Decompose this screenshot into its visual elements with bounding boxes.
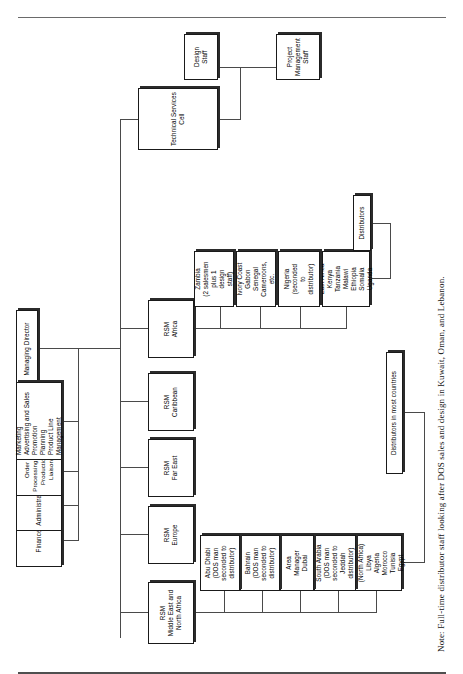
connector-mena-distributors-bus <box>424 413 425 563</box>
connector-rsm-europe-drop <box>120 534 148 535</box>
connector-mena-distributors-riser <box>402 562 424 563</box>
node-nigeria[interactable]: Nigeria (seconded to distributor) <box>278 251 320 307</box>
node-rsm-africa[interactable]: RSM Africa <box>148 300 194 358</box>
connector-africa-to-ivory-coast <box>260 307 261 329</box>
connector-africa-to-east-africa <box>346 307 347 329</box>
chart-footnote: Note: Full-time distributor staff lookin… <box>436 276 446 652</box>
connector-staff-administration <box>62 505 79 506</box>
connector-tsc-project-management-staff <box>240 67 276 68</box>
connector-tsc-bus <box>240 68 241 120</box>
org-chart-canvas: Managing Director Finance Administration… <box>0 0 463 674</box>
node-managing-director[interactable]: Managing Director <box>16 310 38 388</box>
connector-staff-finance <box>62 540 79 541</box>
node-area-manager-north-africa[interactable]: Area Manager (North Africa) Libya Algeri… <box>352 535 402 591</box>
connector-regional-bus <box>120 120 121 638</box>
connector-rsm-far-east-drop <box>120 467 148 468</box>
connector-africa-distributors-bus <box>390 224 391 279</box>
connector-africa-spine <box>194 328 220 329</box>
connector-staff-order-processing <box>62 471 79 472</box>
page-edge-rule-right <box>18 17 446 18</box>
node-distributors-in-most-countries[interactable]: Distributors in most countries <box>386 352 403 474</box>
connector-rsm-mena-drop <box>120 612 148 613</box>
connector-staff-bus <box>78 349 79 541</box>
node-technical-services-cell[interactable]: Technical Services Cell <box>138 88 218 150</box>
connector-staff-marketing <box>62 421 79 422</box>
connector-technical-services-drop <box>120 119 138 120</box>
connector-africa-distributors-drop <box>370 223 391 224</box>
node-ivory-coast-gabon-senegal-cameroons[interactable]: Ivory Coast Gabon Senegal Cameroons, etc… <box>236 251 276 307</box>
connector-tsc-spine <box>218 119 240 120</box>
node-abu-dhabi[interactable]: Abu Dhabi (DOS man seconded to distribut… <box>200 535 240 591</box>
node-rsm-europe[interactable]: RSM Europe <box>148 506 194 564</box>
connector-md-spine <box>38 348 120 349</box>
connector-africa-riser <box>220 328 346 329</box>
connector-tsc-design-staff <box>218 67 241 68</box>
connector-mena-to-bahrain <box>262 591 263 613</box>
connector-rsm-caribbean-drop <box>120 401 148 402</box>
connector-mena-to-area-manager-dubai <box>300 591 301 613</box>
node-project-management-staff[interactable]: Project Management Staff <box>276 34 320 80</box>
connector-mena-distributors-drop <box>402 412 425 413</box>
page-rotation-wrapper: Managing Director Finance Administration… <box>0 0 463 674</box>
node-distributors[interactable]: Distributors <box>353 195 371 251</box>
connector-rsm-africa-drop <box>120 328 148 329</box>
node-area-manager-dubai[interactable]: Area Manager Dubai <box>280 535 314 591</box>
node-rsm-middle-east-north-africa[interactable]: RSM Middle East and North Africa <box>148 582 194 644</box>
node-design-staff[interactable]: Design Staff <box>184 34 218 80</box>
node-zambia[interactable]: Zambia (2 salesmen plus 1 design staff) <box>194 251 234 307</box>
node-rsm-far-east[interactable]: RSM Far East <box>148 439 194 497</box>
node-east-africa[interactable]: East Africa Kenya Tanzania Malawi Ethiop… <box>322 251 370 307</box>
connector-mena-to-area-manager-north-africa <box>376 591 377 613</box>
connector-africa-to-zambia <box>220 307 221 329</box>
node-south-arabia[interactable]: South Arabia (DOS man seconded to Jeddah… <box>314 535 356 591</box>
node-rsm-caribbean[interactable]: RSM Caribbean <box>148 373 194 431</box>
connector-mena-spine <box>194 612 224 613</box>
node-bahrain[interactable]: Bahrain (DOS man seconded to distributor… <box>240 535 280 591</box>
connector-mena-to-south-arabia <box>338 591 339 613</box>
connector-mena-to-abu-dhabi <box>224 591 225 613</box>
connector-africa-to-nigeria <box>300 307 301 329</box>
node-marketing[interactable]: Marketing Advertising and Sales Promotio… <box>16 382 62 460</box>
